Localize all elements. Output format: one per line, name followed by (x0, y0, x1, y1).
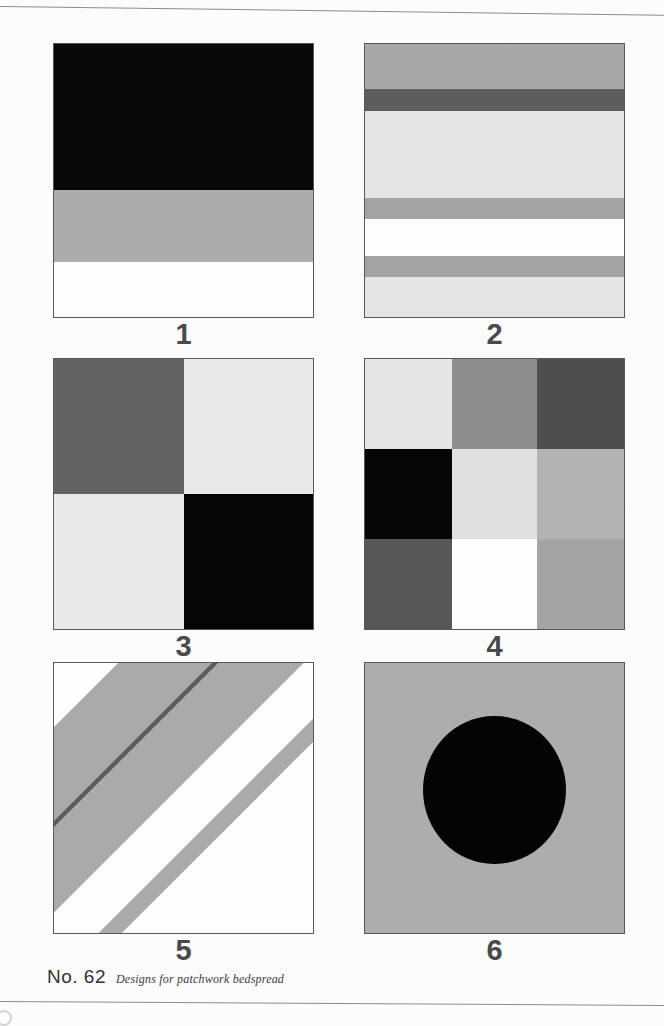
cell-bottom-left (54, 494, 184, 629)
cell-r3c2 (452, 539, 537, 629)
caption-number: No. 62 (47, 966, 106, 988)
plate-4-swatch (364, 358, 625, 630)
caption-text: Designs for patchwork bedspread (116, 972, 284, 987)
plate-3-number: 3 (53, 630, 314, 662)
diagonal-stripe-group (54, 663, 313, 933)
cell-r3c3 (537, 539, 624, 629)
cell-r2c1 (365, 449, 452, 538)
cell-top-right (184, 359, 314, 494)
pale-gray-band-bottom (365, 277, 624, 317)
plate-5-number: 5 (53, 934, 314, 966)
plate-2-number: 2 (364, 318, 625, 350)
plate-6-number: 6 (364, 934, 625, 966)
dark-gray-band (365, 89, 624, 111)
gray-band (54, 190, 313, 262)
cell-bottom-right (184, 494, 314, 629)
cell-r1c2 (452, 359, 537, 449)
plate-3: 3 (53, 358, 314, 630)
plate-5-swatch (53, 662, 314, 934)
cell-r1c1 (365, 359, 452, 449)
pale-gray-band (365, 111, 624, 198)
cell-r1c3 (537, 359, 624, 449)
cell-r2c3 (537, 449, 624, 538)
gray-band-top (365, 44, 624, 89)
white-band (54, 262, 313, 317)
caption: No. 62 Designs for patchwork bedspread (47, 966, 284, 988)
cell-top-left (54, 359, 184, 494)
gray-band-middle (365, 198, 624, 218)
plate-4-number: 4 (364, 630, 625, 662)
plate-2-swatch (364, 43, 625, 318)
plate-4: 4 (364, 358, 625, 630)
cell-r2c2 (452, 449, 537, 538)
black-band (54, 44, 313, 190)
black-disc (423, 716, 565, 865)
gray-band-lower (365, 256, 624, 278)
plate-1-swatch (53, 43, 314, 318)
cell-r3c1 (365, 539, 452, 629)
plate-6: 6 (364, 662, 625, 934)
plate-6-swatch (364, 662, 625, 934)
plate-1: 1 (53, 43, 314, 318)
white-band (365, 219, 624, 256)
plate-5: 5 (53, 662, 314, 934)
plate-2: 2 (364, 43, 625, 318)
plate-3-swatch (53, 358, 314, 630)
plate-1-number: 1 (53, 318, 314, 350)
